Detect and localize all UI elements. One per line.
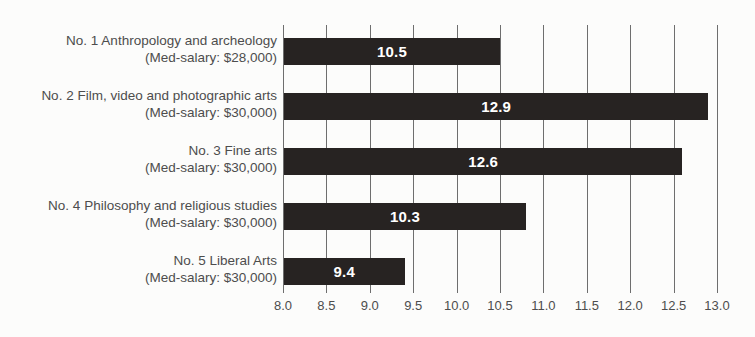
- category-salary: (Med-salary: $30,000): [0, 215, 277, 232]
- category-name: No. 3 Fine arts: [0, 143, 277, 160]
- category-name: No. 1 Anthropology and archeology: [0, 33, 277, 50]
- bar-value-label: 12.9: [481, 98, 511, 115]
- bar-value-label: 9.4: [334, 263, 355, 280]
- category-label: No. 1 Anthropology and archeology(Med-sa…: [0, 33, 277, 66]
- category-label: No. 2 Film, video and photographic arts(…: [0, 88, 277, 121]
- category-salary: (Med-salary: $30,000): [0, 105, 277, 122]
- category-name: No. 4 Philosophy and religious studies: [0, 198, 277, 215]
- x-tick-label: 8.0: [261, 298, 305, 313]
- category-salary: (Med-salary: $28,000): [0, 50, 277, 67]
- category-name: No. 5 Liberal Arts: [0, 253, 277, 270]
- x-tick-label: 12.5: [652, 298, 696, 313]
- category-salary: (Med-salary: $30,000): [0, 270, 277, 287]
- bar-value-label: 10.5: [377, 43, 407, 60]
- bar: 9.4: [284, 258, 405, 285]
- category-label: No. 3 Fine arts(Med-salary: $30,000): [0, 143, 277, 176]
- gridline: [717, 25, 718, 293]
- x-tick-label: 13.0: [695, 298, 739, 313]
- x-tick-label: 11.5: [565, 298, 609, 313]
- bar-chart: 10.512.912.610.39.4 No. 1 Anthropology a…: [0, 0, 755, 337]
- category-salary: (Med-salary: $30,000): [0, 160, 277, 177]
- x-tick-label: 8.5: [304, 298, 348, 313]
- x-tick-label: 12.0: [608, 298, 652, 313]
- bar-value-label: 12.6: [468, 153, 498, 170]
- category-name: No. 2 Film, video and photographic arts: [0, 88, 277, 105]
- x-tick-label: 10.0: [435, 298, 479, 313]
- category-label: No. 5 Liberal Arts(Med-salary: $30,000): [0, 253, 277, 286]
- x-tick-label: 9.5: [391, 298, 435, 313]
- x-tick-label: 10.5: [478, 298, 522, 313]
- bar: 12.6: [284, 148, 682, 175]
- bar-value-label: 10.3: [390, 208, 420, 225]
- bar: 10.5: [284, 38, 500, 65]
- bar: 12.9: [284, 93, 708, 120]
- x-tick-label: 11.0: [521, 298, 565, 313]
- category-label: No. 4 Philosophy and religious studies(M…: [0, 198, 277, 231]
- x-tick-label: 9.0: [348, 298, 392, 313]
- bar: 10.3: [284, 203, 526, 230]
